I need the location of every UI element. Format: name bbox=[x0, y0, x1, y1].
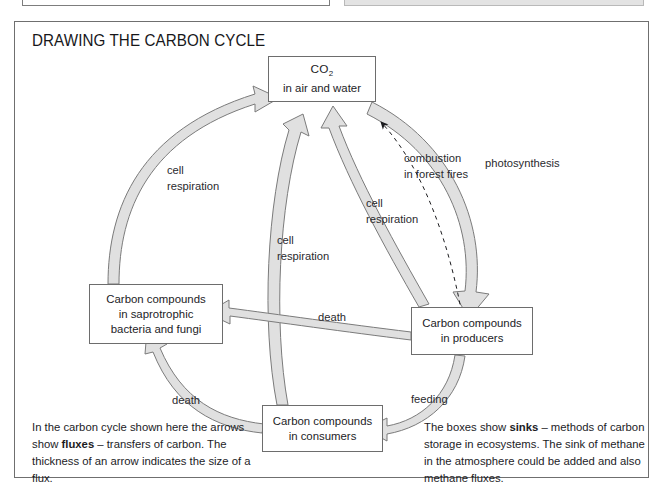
caption-fluxes-bold: fluxes bbox=[62, 438, 95, 450]
node-producers-line2: in producers bbox=[441, 331, 504, 346]
node-saprotrophs-line3: bacteria and fungi bbox=[111, 322, 202, 337]
caption-fluxes: In the carbon cycle shown here the arrow… bbox=[32, 419, 264, 487]
label-death-consumers: death bbox=[172, 393, 200, 408]
arrow-consumers-to-saprotrophs bbox=[145, 330, 264, 433]
label-combustion-line1: combustion bbox=[404, 150, 468, 166]
label-cell-respiration-right-line1: cell bbox=[366, 195, 418, 211]
label-cell-respiration-middle-line2: respiration bbox=[277, 248, 329, 264]
caption-sinks: The boxes show sinks – methods of carbon… bbox=[424, 419, 649, 487]
label-cell-respiration-left: cell respiration bbox=[167, 162, 219, 194]
node-saprotrophs-line1: Carbon compounds bbox=[106, 292, 205, 307]
node-producers: Carbon compounds in producers bbox=[411, 307, 533, 355]
label-feeding: feeding bbox=[411, 392, 448, 407]
label-cell-respiration-right: cell respiration bbox=[366, 195, 418, 227]
label-combustion: combustion in forest fires bbox=[404, 150, 468, 182]
label-cell-respiration-left-line2: respiration bbox=[167, 178, 219, 194]
label-cell-respiration-middle: cell respiration bbox=[277, 232, 329, 264]
node-saprotrophs: Carbon compounds in saprotrophic bacteri… bbox=[89, 284, 223, 344]
label-cell-respiration-left-line1: cell bbox=[167, 162, 219, 178]
node-co2: CO2 in air and water bbox=[268, 56, 376, 102]
cut-off-content-above bbox=[0, 0, 663, 9]
partial-box-bordered bbox=[22, 0, 330, 6]
node-producers-line1: Carbon compounds bbox=[422, 316, 521, 331]
carbon-cycle-panel: DRAWING THE CARBON CYCLE .flux { fill: #… bbox=[14, 21, 649, 478]
node-co2-line1: CO2 bbox=[311, 62, 334, 81]
label-cell-respiration-middle-line1: cell bbox=[277, 232, 329, 248]
node-co2-line2: in air and water bbox=[283, 81, 361, 96]
node-saprotrophs-line2: in saprotrophic bbox=[119, 307, 194, 322]
caption-sinks-part1: The boxes show bbox=[424, 421, 509, 433]
node-consumers: Carbon compounds in consumers bbox=[262, 405, 383, 452]
label-combustion-line2: in forest fires bbox=[404, 166, 468, 182]
node-consumers-line1: Carbon compounds bbox=[273, 414, 372, 429]
label-cell-respiration-right-line2: respiration bbox=[366, 211, 418, 227]
caption-sinks-bold: sinks bbox=[509, 421, 538, 433]
arrow-producers-to-saprotrophs bbox=[207, 300, 411, 340]
label-photosynthesis: photosynthesis bbox=[485, 156, 560, 171]
label-death-producers: death bbox=[318, 310, 346, 325]
partial-box-shaded bbox=[344, 0, 644, 6]
node-consumers-line2: in consumers bbox=[289, 429, 357, 444]
